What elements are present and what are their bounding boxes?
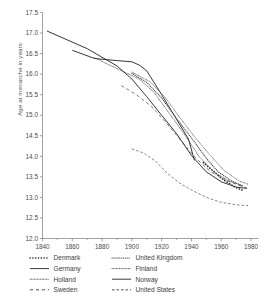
x-tick-label: 1900	[125, 243, 140, 250]
axes: 12.012.513.013.514.014.515.015.516.016.5…	[26, 9, 259, 250]
legend-label-sweden: Sweden	[54, 286, 78, 293]
x-tick-label: 1960	[214, 243, 229, 250]
data-series-group	[47, 31, 248, 206]
series-line-united-states	[132, 149, 248, 206]
series-line-norway	[47, 31, 247, 188]
legend-label-denmark: Denmark	[54, 254, 81, 261]
chart-legend: DenmarkGermanyHollandSwedenUnited Kingdo…	[30, 254, 183, 293]
x-tick-label: 1860	[65, 243, 80, 250]
legend-label-united-kingdom: United Kingdom	[136, 254, 183, 262]
y-tick-label: 13.0	[26, 194, 39, 201]
y-tick-label: 14.0	[26, 153, 39, 160]
legend-label-finland: Finland	[136, 265, 158, 272]
y-tick-label: 12.5	[26, 214, 39, 221]
y-tick-label: 15.5	[26, 91, 39, 98]
series-line-finland	[132, 72, 248, 184]
legend-label-holland: Holland	[54, 276, 77, 283]
x-tick-label: 1940	[184, 243, 199, 250]
y-tick-label: 17.0	[26, 29, 39, 36]
chart-figure: Age at menarche in years 12.012.513.013.…	[0, 0, 264, 299]
legend-label-united-states: United States	[136, 286, 176, 293]
y-tick-label: 12.0	[26, 235, 39, 242]
y-tick-label: 16.5	[26, 50, 39, 57]
x-tick-label: 1980	[244, 243, 259, 250]
series-line-holland	[95, 58, 244, 186]
legend-label-germany: Germany	[54, 265, 82, 273]
x-tick-label: 1840	[35, 243, 50, 250]
series-line-sweden	[121, 86, 248, 189]
y-tick-label: 17.5	[26, 9, 39, 16]
x-tick-label: 1920	[155, 243, 170, 250]
series-line-united-kingdom	[132, 73, 242, 186]
series-line-germany	[72, 50, 194, 160]
y-tick-label: 16.0	[26, 70, 39, 77]
y-tick-label: 14.5	[26, 132, 39, 139]
x-tick-label: 1880	[95, 243, 110, 250]
line-chart-canvas: 12.012.513.013.514.014.515.015.516.016.5…	[0, 0, 264, 299]
legend-label-norway: Norway	[136, 276, 159, 284]
y-tick-label: 15.0	[26, 111, 39, 118]
y-tick-label: 13.5	[26, 173, 39, 180]
